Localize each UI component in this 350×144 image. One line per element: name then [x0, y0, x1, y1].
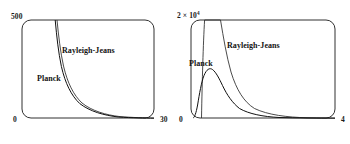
right-x-axis-max-label: 4: [341, 116, 345, 124]
left-plot-frame: [22, 20, 154, 118]
right-y-axis-max-exponent: 4: [197, 10, 200, 16]
right-y-axis-min-label: 0: [179, 116, 183, 124]
right-rayleigh-jeans-label: Rayleigh-Jeans: [227, 42, 280, 50]
left-planck-label: Planck: [37, 75, 61, 83]
blackbody-radiation-figure: 500 0 30 Rayleigh-Jeans Planck 2 × 104 0…: [0, 0, 350, 144]
left-rayleigh-jeans-label: Rayleigh-Jeans: [62, 47, 115, 55]
right-y-axis-max-label: 2 × 104: [177, 12, 200, 20]
left-x-axis-max-label: 30: [160, 116, 168, 124]
right-y-axis-max-mantissa: 2 × 10: [177, 11, 197, 20]
left-y-axis-max-label: 500: [11, 13, 23, 21]
chart-panel-left: 500 0 30 Rayleigh-Jeans Planck: [0, 0, 175, 144]
right-planck-label: Planck: [189, 60, 213, 68]
chart-panel-right: 2 × 104 0 4 Rayleigh-Jeans Planck: [175, 0, 350, 144]
left-y-axis-min-label: 0: [13, 116, 17, 124]
right-plot-graphic: [175, 0, 350, 144]
left-plot-graphic: [0, 0, 175, 144]
